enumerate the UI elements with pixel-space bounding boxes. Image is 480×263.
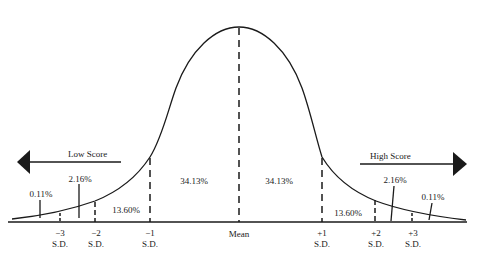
region-label-left-tail: 0.11% xyxy=(30,189,53,200)
region-label-left-2sd: 2.16% xyxy=(68,174,91,185)
tick-minus3: −3S.D. xyxy=(52,228,68,250)
tick-minus1: −1S.D. xyxy=(142,228,158,250)
low-score-label: Low Score xyxy=(68,149,107,159)
leader-right-216 xyxy=(391,186,394,221)
region-label-right-tail: 0.11% xyxy=(422,192,445,203)
tick-plus3: +3S.D. xyxy=(405,228,421,250)
region-label-right-1sd: 13.60% xyxy=(334,208,362,219)
region-label-left-center: 34.13% xyxy=(180,176,208,187)
tick-plus1: +1S.D. xyxy=(314,228,330,250)
leader-right-011 xyxy=(429,203,432,220)
region-label-right-center: 34.13% xyxy=(265,176,293,187)
normal-curve-diagram xyxy=(0,0,480,263)
high-score-label: High Score xyxy=(370,151,411,161)
region-label-left-1sd: 13.60% xyxy=(112,205,140,216)
tick-minus2: −2S.D. xyxy=(88,228,104,250)
tick-plus2: +2S.D. xyxy=(368,228,384,250)
region-label-right-2sd: 2.16% xyxy=(383,175,406,186)
tick-mean: Mean xyxy=(229,229,250,240)
